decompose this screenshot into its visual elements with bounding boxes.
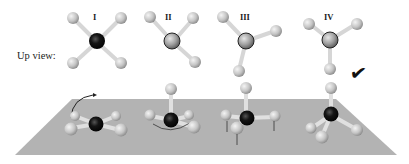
ligand-atom [144, 11, 156, 23]
ligand-atom [351, 124, 363, 136]
central-atom [238, 33, 254, 49]
ligand-atom [67, 12, 79, 24]
up-view-molecule-I [67, 12, 127, 69]
ligand-atom [231, 122, 244, 135]
ligand-atom [70, 111, 80, 121]
molecule-label-III: III [240, 12, 250, 22]
ligand-atom [324, 63, 336, 75]
ligand-atom [189, 56, 201, 68]
ligand-atom [187, 12, 199, 24]
ligand-atom [115, 124, 128, 137]
ligand-atom [184, 110, 194, 120]
up-view-label: Up view: [17, 50, 56, 61]
ligand-atom [325, 82, 337, 94]
ligand-atom [115, 57, 127, 69]
ligand-atom [65, 123, 78, 136]
ligand-atom [306, 123, 317, 134]
ligand-atom [115, 12, 127, 24]
central-atom [89, 33, 105, 49]
ligand-atom [111, 111, 121, 121]
ligand-atom [351, 18, 363, 30]
central-atom [324, 107, 339, 122]
molecule-label-IV: IV [324, 12, 333, 22]
central-atom [164, 113, 179, 128]
central-atom [322, 32, 338, 48]
up-view-molecule-II [144, 11, 201, 68]
ligand-atom [240, 82, 252, 94]
central-atom [89, 117, 104, 132]
ligand-atom [188, 121, 201, 134]
ligand-atom [67, 57, 79, 69]
ligand-atom [316, 131, 329, 144]
ligand-atom [165, 83, 177, 95]
ligand-atom [221, 110, 232, 121]
ligand-atom [145, 110, 156, 121]
checkmark-icon: ✔ [349, 62, 368, 84]
ligand-atom [303, 18, 315, 30]
ligand-atom [217, 11, 229, 23]
ligand-atom [270, 111, 281, 122]
ligand-atom [270, 25, 282, 37]
molecule-label-II: II [165, 12, 172, 22]
ligand-atom [233, 65, 245, 77]
molecule-label-I: I [93, 12, 96, 22]
rotation-arrowhead [93, 93, 97, 97]
central-atom [164, 33, 180, 49]
central-atom [240, 111, 255, 126]
